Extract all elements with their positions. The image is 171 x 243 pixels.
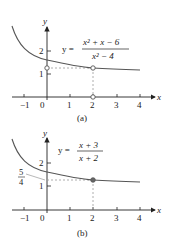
x-tick-label: −1: [20, 213, 30, 223]
y-tick-label: 1: [39, 69, 44, 79]
x-axis-label: x: [156, 205, 161, 215]
x-tick-label: 4: [137, 100, 142, 110]
caption: (b): [77, 228, 88, 238]
figure: −1 0 1 2 3 4 1 2 x y y = x² + x − 6 x² −…: [0, 0, 171, 243]
y-annotation-numerator: 5: [19, 167, 23, 177]
x-tick-label: 1: [67, 100, 72, 110]
x-tick-label: 2: [90, 213, 95, 223]
curve: [12, 26, 140, 70]
hole-point: [91, 95, 95, 99]
y-tick-label: 1: [39, 181, 44, 191]
y-annotation-denominator: 4: [19, 177, 24, 187]
equation-numerator: x² + x − 6: [82, 37, 120, 47]
panel-b: −1 0 1 2 3 4 1 2 x y 5 4 y = x + 3 x + 2…: [12, 128, 161, 238]
panel-a: −1 0 1 2 3 4 1 2 x y y = x² + x − 6 x² −…: [12, 16, 161, 123]
caption: (a): [77, 113, 87, 123]
hole-point: [91, 66, 95, 70]
x-axis-label: x: [156, 92, 161, 102]
y-tick-label: 2: [39, 46, 44, 56]
equation-lhs: y =: [62, 44, 74, 54]
x-tick-label: 4: [137, 213, 142, 223]
x-tick-label: −1: [20, 100, 30, 110]
x-tick-label: 1: [67, 213, 72, 223]
filled-point: [91, 178, 96, 183]
y-axis-label: y: [42, 128, 47, 138]
x-tick-label: 2: [90, 100, 95, 110]
y-tick-label: 2: [39, 158, 44, 168]
x-tick-label: 0: [40, 100, 45, 110]
equation-denominator: x² − 4: [91, 51, 114, 61]
x-tick-label: 3: [114, 213, 119, 223]
equation-denominator: x + 2: [78, 153, 99, 163]
equation-numerator: x + 3: [78, 140, 99, 150]
x-tick-label: 3: [114, 100, 119, 110]
y-axis-label: y: [42, 16, 47, 26]
equation-lhs: y =: [58, 145, 70, 155]
x-tick-label: 0: [40, 213, 45, 223]
hole-point: [45, 66, 49, 70]
